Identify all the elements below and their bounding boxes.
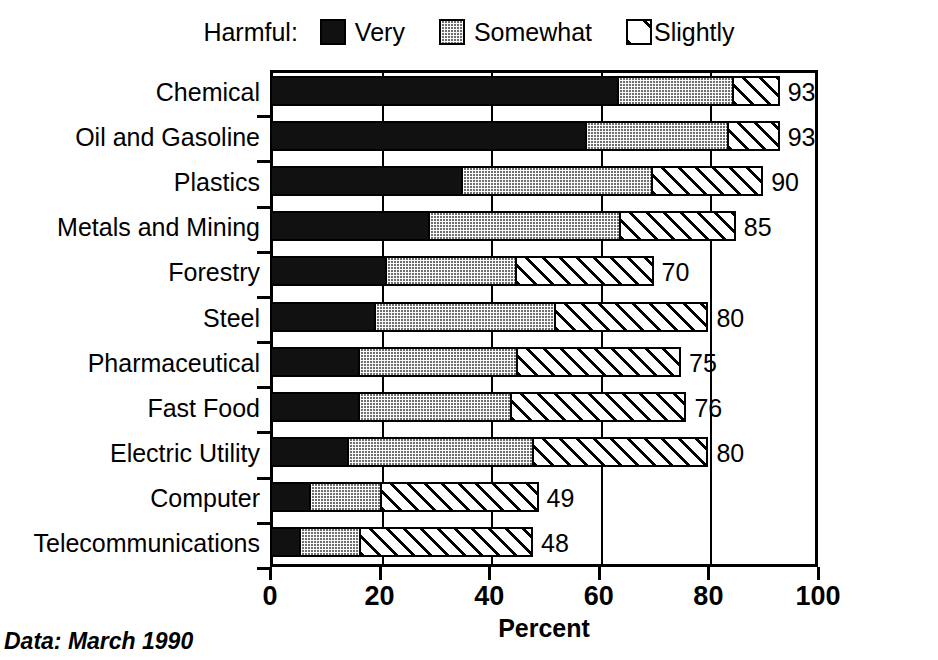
bar-segment-very [272,484,309,510]
y-axis-label-metals-and-mining: Metals and Mining [0,213,260,241]
bar-value-label: 90 [771,168,799,196]
bar-segment-slightly [532,439,706,465]
chart-legend: Harmful: Very Somewhat Slightly [0,8,938,56]
bar-value-label: 48 [541,529,569,557]
bar-value-label: 49 [547,484,575,512]
bar-segment-somewhat [347,439,532,465]
y-axis-tick [257,522,271,525]
bar-segment-somewhat [309,484,380,510]
y-axis-label-steel: Steel [0,304,260,332]
bar-segment-somewhat [385,258,516,284]
x-axis-tick [488,567,491,580]
x-axis-tick-label-100: 100 [778,580,858,612]
bar-electric-utility [270,437,708,467]
legend-label-very: Very [355,18,405,47]
solid-black-swatch-icon [320,19,346,45]
x-axis-tick [269,567,272,580]
bar-pharmaceutical [270,347,681,377]
bar-segment-slightly [515,258,651,284]
bar-oil-and-gasoline [270,121,780,151]
bar-segment-slightly [359,529,531,555]
y-axis-label-oil-and-gasoline: Oil and Gasoline [0,123,260,151]
legend-entry-somewhat: Somewhat [439,18,592,47]
x-axis-tick-label-40: 40 [449,580,529,612]
bar-segment-slightly [554,304,707,330]
y-axis-label-telecommunications: Telecommunications [0,529,260,557]
bar-segment-somewhat [585,123,727,149]
legend-entry-slightly: Slightly [626,18,735,47]
y-axis-label-chemical: Chemical [0,78,260,106]
bar-segment-very [272,123,585,149]
x-axis-tick-label-0: 0 [230,580,310,612]
bar-computer [270,482,539,512]
y-axis-tick [257,251,271,254]
legend-entry-very: Very [320,18,405,47]
legend-title: Harmful: [203,18,297,47]
y-axis-label-fast-food: Fast Food [0,394,260,422]
legend-label-somewhat: Somewhat [474,18,592,47]
bar-telecommunications [270,527,533,557]
bar-segment-somewhat [358,349,516,375]
diagonal-hatch-swatch-icon [626,19,652,45]
bar-forestry [270,256,654,286]
x-axis-tick [707,567,710,580]
bar-value-label: 75 [689,349,717,377]
chart-footnote: Data: March 1990 [4,628,193,655]
bar-segment-very [272,78,617,104]
x-axis-tick-label-20: 20 [340,580,420,612]
bar-value-label: 80 [716,439,744,467]
bar-segment-somewhat [374,304,554,330]
bar-steel [270,302,708,332]
y-axis-tick [257,431,271,434]
bar-segment-slightly [619,213,734,239]
x-axis-tick [379,567,382,580]
bar-value-label: 93 [788,123,816,151]
bar-value-label: 76 [694,394,722,422]
bar-segment-very [272,304,374,330]
bar-chemical [270,76,780,106]
x-axis-tick-label-80: 80 [668,580,748,612]
y-axis-label-computer: Computer [0,484,260,512]
y-axis-label-forestry: Forestry [0,258,260,286]
bar-segment-slightly [510,394,684,420]
y-axis-tick [257,115,271,118]
y-axis-label-pharmaceutical: Pharmaceutical [0,349,260,377]
bar-segment-somewhat [428,213,619,239]
bar-segment-slightly [727,123,778,149]
bar-metals-and-mining [270,211,736,241]
y-axis-tick [257,206,271,209]
bar-segment-somewhat [299,529,359,555]
x-axis-tick [598,567,601,580]
y-axis-tick [257,386,271,389]
y-axis-tick [257,341,271,344]
bar-segment-slightly [732,78,777,104]
bar-segment-very [272,349,358,375]
legend-label-slightly: Slightly [654,18,735,47]
bar-segment-somewhat [358,394,510,420]
bar-segment-somewhat [461,168,652,194]
y-axis-tick [257,477,271,480]
y-axis-label-electric-utility: Electric Utility [0,439,260,467]
bar-segment-very [272,439,347,465]
bar-segment-slightly [516,349,679,375]
bar-value-label: 93 [788,78,816,106]
bar-segment-somewhat [617,78,732,104]
bar-segment-very [272,168,461,194]
stippled-gray-swatch-icon [439,19,465,45]
bar-plastics [270,166,763,196]
bar-fast-food [270,392,686,422]
bar-value-label: 85 [744,213,772,241]
y-axis-tick [257,160,271,163]
bar-segment-very [272,394,358,420]
bar-value-label: 80 [716,304,744,332]
y-axis-tick [257,296,271,299]
bar-segment-very [272,529,299,555]
x-axis-title: Percent [270,614,818,643]
y-axis-label-plastics: Plastics [0,168,260,196]
bar-segment-slightly [380,484,536,510]
bar-value-label: 70 [662,258,690,286]
bar-segment-very [272,213,428,239]
bar-segment-slightly [651,168,761,194]
x-axis-tick-label-60: 60 [559,580,639,612]
bar-segment-very [272,258,385,284]
